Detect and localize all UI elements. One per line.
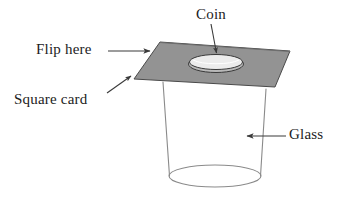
coin-card-glass-figure: Coin Flip here Square card Glass xyxy=(0,0,340,206)
label-glass: Glass xyxy=(289,127,323,142)
label-flip-here: Flip here xyxy=(36,42,92,57)
glass-group xyxy=(163,82,266,187)
coin-group xyxy=(189,55,244,73)
square-card-leader-line xyxy=(107,76,131,93)
label-coin: Coin xyxy=(196,7,226,22)
label-square-card: Square card xyxy=(14,92,87,107)
